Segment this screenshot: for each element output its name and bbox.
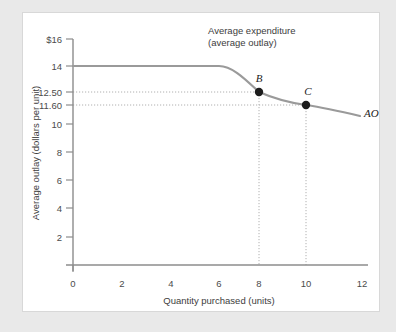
annotation-title: Average expenditure (208, 25, 296, 36)
y-tick-label-10: 10 (51, 119, 62, 130)
x-tick-label-6: 6 (216, 278, 221, 289)
x-tick-label-2: 2 (119, 278, 124, 289)
x-tick-label-8: 8 (256, 278, 261, 289)
x-tick-label-0: 0 (70, 278, 75, 289)
x-tick-label-4: 4 (168, 278, 173, 289)
annotation-subtitle: (average outlay) (208, 37, 277, 48)
y-tick-label-16: $16 (46, 34, 62, 45)
y-tick-label-8: 8 (57, 147, 62, 158)
x-tick-label-10: 10 (301, 278, 312, 289)
y-tick-label-6: 6 (57, 175, 62, 186)
guide-lines (73, 92, 306, 265)
screenshot-root: $16 14 12.50 11.60 10 8 6 4 2 0 2 4 6 8 (0, 0, 396, 332)
data-point-c[interactable] (302, 101, 310, 109)
x-tick-label-12: 12 (357, 278, 368, 289)
average-outlay-curve (73, 66, 360, 116)
y-axis-ticks (66, 39, 73, 237)
data-point-markers (255, 88, 310, 109)
x-axis-tick-labels: 0 2 4 6 8 10 12 (70, 278, 367, 289)
data-point-c-label: C (304, 85, 312, 97)
axes (66, 39, 368, 271)
figure-panel: $16 14 12.50 11.60 10 8 6 4 2 0 2 4 6 8 (22, 12, 380, 312)
y-tick-label-4: 4 (57, 203, 62, 214)
y-axis-tick-labels: $16 14 12.50 11.60 10 8 6 4 2 (38, 34, 62, 243)
x-axis-title: Quantity purchased (units) (163, 295, 274, 306)
y-tick-label-14: 14 (51, 61, 62, 72)
y-tick-label-12_50: 12.50 (38, 87, 62, 98)
curve-label-ao: AO (363, 107, 379, 119)
chart-canvas: $16 14 12.50 11.60 10 8 6 4 2 0 2 4 6 8 (23, 13, 379, 311)
data-point-b-label: B (256, 72, 263, 84)
y-tick-label-2: 2 (57, 232, 62, 243)
data-point-b[interactable] (255, 88, 263, 96)
y-axis-title: Average outlay (dollars per unit) (30, 86, 41, 220)
y-tick-label-11_60: 11.60 (39, 100, 62, 111)
